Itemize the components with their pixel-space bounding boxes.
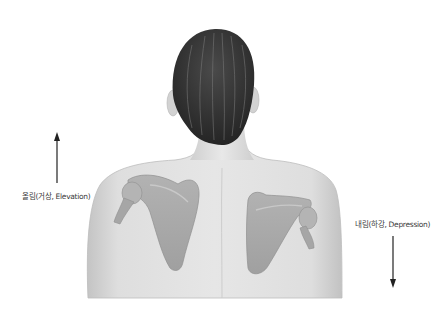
torso-illustration — [0, 0, 448, 313]
scapula-movement-diagram: 올림(거상, Elevation) 내림(하강, Depression) — [0, 0, 448, 313]
elevation-arrow — [54, 132, 60, 183]
depression-label: 내림(하강, Depression) — [355, 218, 430, 229]
depression-arrow — [390, 236, 396, 288]
elevation-label: 올림(거상, Elevation) — [22, 190, 90, 201]
head-hair — [173, 29, 255, 145]
